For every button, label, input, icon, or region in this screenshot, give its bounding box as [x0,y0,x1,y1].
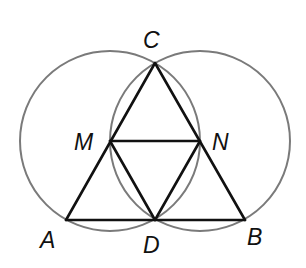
label-point-b: B [247,224,262,250]
label-point-a: A [38,227,55,253]
geometry-diagram: CMNADB [0,0,306,268]
segment-nd [155,141,200,220]
label-point-n: N [212,129,229,155]
label-point-c: C [143,27,160,53]
label-point-d: D [143,232,160,258]
segment-md [110,141,155,220]
label-point-m: M [74,129,94,155]
